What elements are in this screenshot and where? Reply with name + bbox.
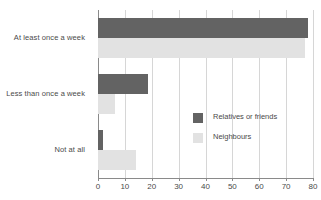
x-tick-label-20: 20 xyxy=(147,182,156,191)
legend-label-relatives-or-friends: Relatives or friends xyxy=(213,112,277,121)
x-tick-label-60: 60 xyxy=(255,182,264,191)
tick-mark-0 xyxy=(98,178,99,181)
category-label-0: At least once a week xyxy=(14,33,85,42)
tick-mark-40 xyxy=(206,178,207,181)
tick-mark-50 xyxy=(232,178,233,181)
x-tick-label-40: 40 xyxy=(201,182,210,191)
tick-mark-60 xyxy=(259,178,260,181)
tick-mark-10 xyxy=(125,178,126,181)
gridline-80 xyxy=(313,10,314,178)
tick-mark-20 xyxy=(152,178,153,181)
tick-mark-70 xyxy=(286,178,287,181)
legend-swatch-icon-relatives-or-friends xyxy=(193,113,203,123)
x-tick-label-80: 80 xyxy=(309,182,318,191)
bar-2-1 xyxy=(98,150,136,170)
tick-mark-30 xyxy=(179,178,180,181)
category-label-1: Less than once a week xyxy=(6,89,85,98)
x-tick-label-30: 30 xyxy=(174,182,183,191)
tick-mark-80 xyxy=(313,178,314,181)
x-tick-label-50: 50 xyxy=(228,182,237,191)
category-label-2: Not at all xyxy=(54,145,85,154)
x-tick-label-10: 10 xyxy=(120,182,129,191)
legend-label-neighbours: Neighbours xyxy=(213,132,251,141)
bar-chart: At least once a week Less than once a we… xyxy=(0,0,321,200)
bar-2-0 xyxy=(98,130,103,150)
bar-0-1 xyxy=(98,38,305,58)
plot-area xyxy=(98,10,313,178)
x-tick-label-70: 70 xyxy=(282,182,291,191)
bar-1-1 xyxy=(98,94,115,114)
bar-1-0 xyxy=(98,74,148,94)
bar-0-0 xyxy=(98,18,308,38)
x-tick-label-0: 0 xyxy=(96,182,100,191)
legend-swatch-icon-neighbours xyxy=(193,133,203,143)
